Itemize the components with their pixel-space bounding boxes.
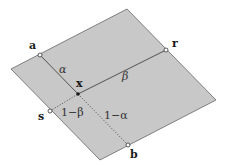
point-x-label: x xyxy=(76,77,83,90)
beta-label: β xyxy=(121,70,128,83)
point-b-label: b xyxy=(130,148,138,161)
point-s-marker xyxy=(48,109,52,113)
parallelogram-diagram: a r s b x α β 1−β 1−α xyxy=(0,0,226,165)
diagram-canvas: a r s b x α β 1−β 1−α xyxy=(0,0,226,165)
point-x-marker xyxy=(76,92,80,96)
point-a-marker xyxy=(38,53,42,57)
one-minus-beta-label: 1−β xyxy=(61,106,84,119)
point-a-label: a xyxy=(29,39,36,52)
point-s-label: s xyxy=(38,110,44,123)
alpha-label: α xyxy=(59,63,67,76)
parallelogram-surface xyxy=(11,9,216,160)
point-r-label: r xyxy=(172,37,178,50)
point-b-marker xyxy=(126,143,130,147)
point-r-marker xyxy=(164,48,168,52)
one-minus-alpha-label: 1−α xyxy=(104,109,128,122)
